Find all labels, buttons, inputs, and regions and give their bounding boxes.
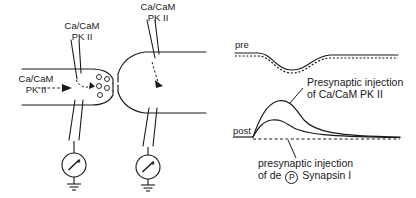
presynaptic-electrode bbox=[62, 141, 86, 190]
annotation-line-2-before: of de bbox=[258, 169, 281, 181]
label-line-2: PK II bbox=[126, 13, 190, 24]
figure-root: Ca/CaM PK II Ca/CaM PK II Ca/CaM PK II p… bbox=[0, 0, 416, 198]
synaptic-vesicles bbox=[97, 75, 110, 98]
trace-label-post: post bbox=[233, 126, 251, 137]
label-line-2: PK II bbox=[50, 32, 114, 43]
terminal-release-arrow bbox=[76, 80, 91, 87]
annotation-ca-cam-injection: Presynaptic injection of Ca/CaM PK II bbox=[307, 77, 403, 101]
annotation-line-2: of de P Synapsin I bbox=[258, 170, 353, 184]
annotation-synapsin-injection: presynaptic injection of de P Synapsin I bbox=[258, 158, 353, 184]
postsynaptic-electrode bbox=[136, 147, 160, 191]
postsynaptic-injection-arrow bbox=[152, 62, 158, 82]
label-line-2: PK II bbox=[5, 85, 67, 96]
label-postsynaptic-injection: Ca/CaM PK II bbox=[126, 2, 190, 23]
postsynaptic-ground-icon bbox=[141, 185, 155, 191]
presynaptic-dashed-trace bbox=[235, 56, 398, 73]
postsynaptic-recording-pipette bbox=[143, 108, 157, 146]
presynaptic-ground-icon bbox=[67, 184, 81, 190]
postsynaptic-cell bbox=[118, 52, 206, 113]
trace-label-pre: pre bbox=[235, 40, 249, 51]
terminal-release-arrowhead bbox=[89, 82, 95, 89]
circled-p-icon: P bbox=[285, 171, 298, 184]
label-presynaptic-axon-injection: Ca/CaM PK II bbox=[5, 74, 67, 95]
presynaptic-terminal-pipette bbox=[71, 40, 81, 79]
post-large-response-ca-cam-pk-ii bbox=[253, 101, 400, 137]
annotation-line-1: Presynaptic injection bbox=[307, 77, 403, 89]
presynaptic-recording-pipette bbox=[69, 100, 83, 140]
annotation-line-2: of Ca/CaM PK II bbox=[307, 89, 403, 101]
annotation-line-2-after: Synapsin I bbox=[302, 169, 351, 181]
synapsin-annotation-leader bbox=[288, 140, 296, 158]
label-presynaptic-terminal-injection: Ca/CaM PK II bbox=[50, 21, 114, 42]
post-small-response bbox=[253, 120, 400, 138]
ca-cam-annotation-leader bbox=[290, 88, 303, 103]
postsynaptic-injection-arrowhead bbox=[155, 80, 163, 88]
